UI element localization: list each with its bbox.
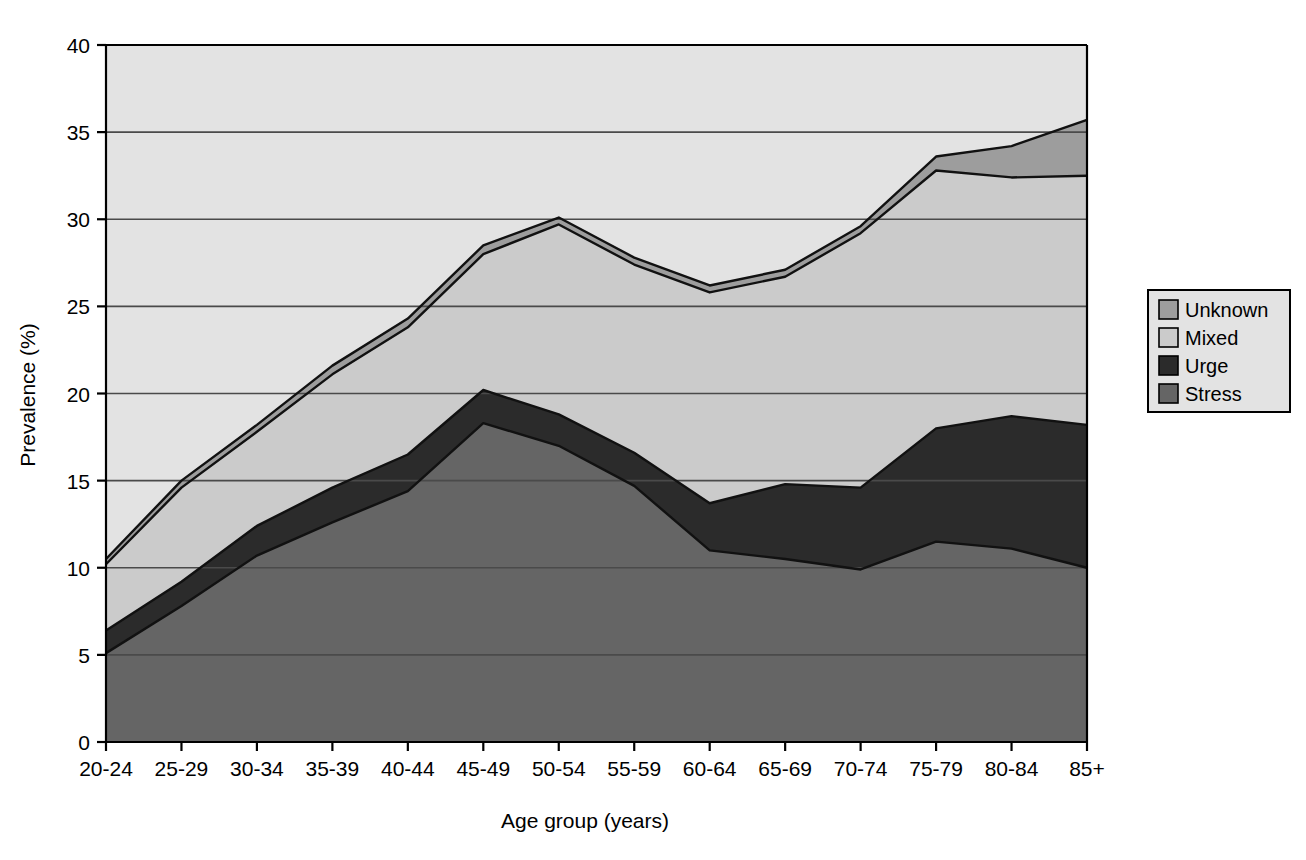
legend-label-unknown: Unknown [1185,299,1268,321]
y-tick-label-0: 0 [78,731,90,754]
x-tick-label-20-24: 20-24 [79,757,133,780]
y-tick-label-20: 20 [67,383,90,406]
y-tick-label-40: 40 [67,34,90,57]
legend-label-mixed: Mixed [1185,327,1238,349]
stacked-area-chart: 0510152025303540 20-2425-2930-3435-3940-… [0,0,1306,860]
legend-swatch-urge [1159,356,1178,375]
x-tick-label-60-64: 60-64 [683,757,737,780]
x-tick-label-85+: 85+ [1069,757,1105,780]
x-tick-label-40-44: 40-44 [381,757,435,780]
x-tick-label-65-69: 65-69 [758,757,812,780]
legend-swatch-mixed [1159,328,1178,347]
y-axis-ticks: 0510152025303540 [67,34,106,754]
x-tick-label-25-29: 25-29 [155,757,209,780]
legend-label-stress: Stress [1185,383,1242,405]
y-tick-label-5: 5 [78,644,90,667]
legend: UnknownMixedUrgeStress [1148,290,1290,412]
x-axis-ticks: 20-2425-2930-3435-3940-4445-4950-5455-59… [79,742,1105,780]
y-tick-label-15: 15 [67,470,90,493]
x-tick-label-50-54: 50-54 [532,757,586,780]
y-tick-label-10: 10 [67,557,90,580]
y-axis-title: Prevalence (%) [16,323,39,467]
x-axis-title: Age group (years) [501,809,669,832]
legend-label-urge: Urge [1185,355,1228,377]
x-tick-label-80-84: 80-84 [985,757,1039,780]
x-tick-label-75-79: 75-79 [909,757,963,780]
y-tick-label-25: 25 [67,295,90,318]
x-tick-label-55-59: 55-59 [607,757,661,780]
x-tick-label-70-74: 70-74 [834,757,888,780]
legend-swatch-unknown [1159,300,1178,319]
chart-figure: 0510152025303540 20-2425-2930-3435-3940-… [0,0,1306,860]
x-tick-label-30-34: 30-34 [230,757,284,780]
x-tick-label-45-49: 45-49 [456,757,510,780]
y-tick-label-35: 35 [67,121,90,144]
y-tick-label-30: 30 [67,208,90,231]
legend-swatch-stress [1159,384,1178,403]
x-tick-label-35-39: 35-39 [306,757,360,780]
